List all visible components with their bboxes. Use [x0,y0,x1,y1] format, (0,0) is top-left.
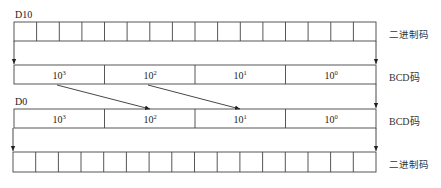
top-bcd-digit-hundreds: 102 [143,70,156,81]
bottom-bcd-side-label: BCD码 [389,117,420,127]
top-bcd-digit-thousands: 103 [52,70,65,81]
bottom-binary-register [13,152,376,172]
top-binary-side-label: 二进制码 [389,30,429,40]
bottom-binary-side-label: 二进制码 [389,160,429,170]
bottom-bcd-digit-ones: 100 [324,114,337,125]
diagram-canvas [0,0,441,188]
bottom-bcd-register [14,109,376,128]
top-bcd-digit-tens: 101 [233,70,246,81]
top-bcd-side-label: BCD码 [389,73,420,83]
shift-arrow-2 [148,85,240,109]
source-register-label: D10 [15,10,32,20]
bottom-bcd-digit-thousands: 103 [52,114,65,125]
top-bcd-register [14,65,376,84]
bottom-bcd-digit-tens: 101 [233,114,246,125]
top-binary-register [14,22,376,41]
dest-register-label: D0 [15,97,27,107]
bottom-bcd-digit-hundreds: 102 [143,114,156,125]
top-bcd-digit-ones: 100 [324,70,337,81]
shift-arrow-1 [57,85,150,109]
